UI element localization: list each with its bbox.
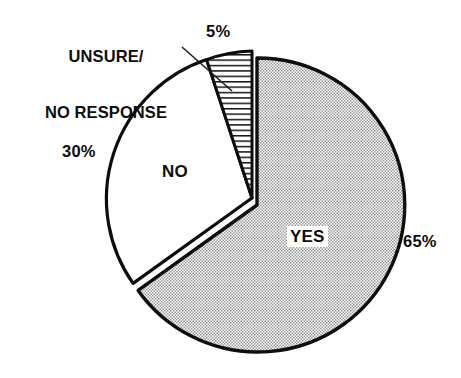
percent-label-no: 30% (62, 142, 96, 161)
callout-label-unsure: UNSURE/ NO RESPONSE (22, 9, 190, 159)
pie-chart-figure: UNSURE/ NO RESPONSE 5% 30% 65% NO YES (0, 0, 461, 378)
callout-label-line-2: NO RESPONSE (22, 103, 190, 122)
slice-label-yes: YES (287, 226, 328, 247)
percent-label-yes: 65% (403, 232, 437, 251)
callout-label-line-1: UNSURE/ (22, 47, 190, 66)
percent-label-unsure: 5% (206, 22, 230, 41)
slice-label-no: NO (162, 162, 188, 181)
